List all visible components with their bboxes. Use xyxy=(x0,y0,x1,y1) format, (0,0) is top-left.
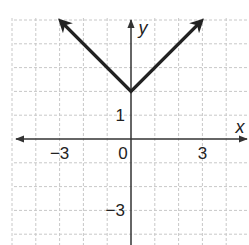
x-tick-label: −3 xyxy=(50,144,69,163)
x-axis-label: x xyxy=(235,117,246,137)
coordinate-plane: −3031−3xy xyxy=(0,0,249,245)
axes xyxy=(16,20,247,245)
y-axis-label: y xyxy=(137,18,149,38)
x-tick-label: 0 xyxy=(118,144,127,163)
y-tick-label: 1 xyxy=(116,106,125,125)
x-tick-label: 3 xyxy=(198,144,207,163)
tick-labels: −3031−3xy xyxy=(50,18,246,220)
y-tick-label: −3 xyxy=(106,201,125,220)
